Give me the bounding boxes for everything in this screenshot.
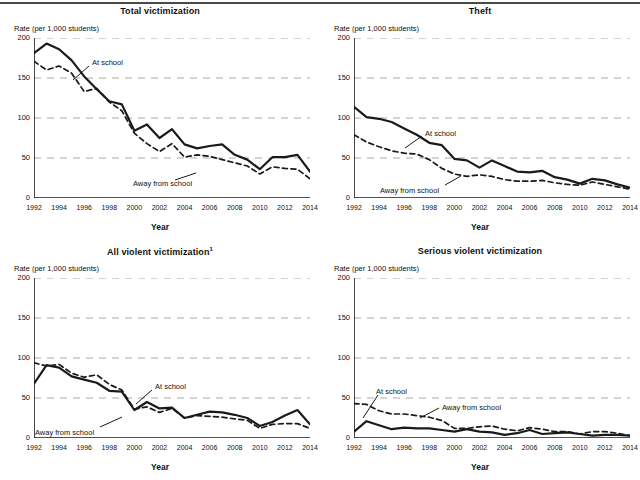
panel-title: Serious violent victimization	[320, 246, 640, 256]
x-axis-tick-label: 2004	[492, 204, 518, 211]
x-axis-tick-label: 1994	[366, 444, 392, 451]
x-axis-tick-label: 2010	[247, 204, 273, 211]
plot-area	[34, 38, 310, 198]
y-axis-tick-label: 100	[6, 113, 30, 122]
y-axis-tick-label: 0	[6, 193, 30, 202]
x-axis-tick-label: 1996	[71, 204, 97, 211]
series-annotation-away-from-school: Away from school	[442, 403, 501, 412]
x-axis-tick-label: 2006	[197, 204, 223, 211]
x-axis-tick-label: 1994	[46, 444, 72, 451]
x-axis-tick-label: 2012	[272, 444, 298, 451]
x-axis-tick-label: 2008	[542, 444, 568, 451]
x-axis-tick-label: 2006	[517, 204, 543, 211]
x-axis-tick-label: 2004	[172, 204, 198, 211]
series-annotation-at-school: At school	[425, 129, 456, 138]
chart-panel-total-victimization: Total victimization Rate (per 1,000 stud…	[0, 0, 320, 240]
chart-panel-serious-violent-victimization: Serious violent victimization Rate (per …	[320, 240, 640, 480]
y-axis-tick-label: 0	[326, 193, 350, 202]
x-axis-tick-label: 2002	[466, 444, 492, 451]
series-annotation-away-from-school: Away from school	[133, 179, 192, 188]
plot-area	[34, 278, 310, 438]
x-axis-tick-label: 2006	[197, 444, 223, 451]
series-annotation-away-from-school: Away from school	[380, 186, 439, 195]
x-axis-tick-label: 2000	[121, 444, 147, 451]
chart-panel-all-violent-victimization: All violent victimization1 Rate (per 1,0…	[0, 240, 320, 480]
x-axis-tick-label: 2014	[617, 444, 640, 451]
y-axis-tick-label: 50	[6, 153, 30, 162]
y-axis-tick-label: 100	[326, 353, 350, 362]
plot-area	[354, 278, 630, 438]
x-axis-tick-label: 2002	[146, 444, 172, 451]
x-axis-label: Year	[320, 462, 640, 472]
y-axis-label: Rate (per 1,000 students)	[14, 264, 99, 273]
y-axis-tick-label: 200	[326, 273, 350, 282]
x-axis-tick-label: 1998	[96, 444, 122, 451]
x-axis-tick-label: 1992	[21, 444, 47, 451]
series-annotation-at-school: At school	[92, 58, 123, 67]
x-axis-tick-label: 1996	[71, 444, 97, 451]
y-axis-label: Rate (per 1,000 students)	[334, 264, 419, 273]
x-axis-tick-label: 2000	[441, 444, 467, 451]
x-axis-tick-label: 2008	[542, 204, 568, 211]
x-axis-tick-label: 2008	[222, 444, 248, 451]
x-axis-tick-label: 2004	[172, 444, 198, 451]
y-axis-tick-label: 0	[326, 433, 350, 442]
y-axis-tick-label: 200	[6, 273, 30, 282]
footnote-marker: 1	[210, 246, 213, 252]
y-axis-tick-label: 0	[6, 433, 30, 442]
x-axis-tick-label: 2002	[146, 204, 172, 211]
panel-title: Theft	[320, 6, 640, 16]
x-axis-label: Year	[320, 222, 640, 232]
x-axis-tick-label: 1996	[391, 204, 417, 211]
panel-title: Total victimization	[0, 6, 320, 16]
y-axis-tick-label: 50	[6, 393, 30, 402]
x-axis-tick-label: 2006	[517, 444, 543, 451]
y-axis-tick-label: 150	[6, 73, 30, 82]
plot-area	[354, 38, 630, 198]
x-axis-tick-label: 2010	[567, 204, 593, 211]
y-axis-tick-label: 50	[326, 393, 350, 402]
series-annotation-at-school: At school	[155, 382, 186, 391]
x-axis-tick-label: 1994	[366, 204, 392, 211]
x-axis-tick-label: 1996	[391, 444, 417, 451]
x-axis-tick-label: 2000	[121, 204, 147, 211]
y-axis-tick-label: 100	[326, 113, 350, 122]
y-axis-tick-label: 100	[6, 353, 30, 362]
x-axis-tick-label: 1992	[341, 204, 367, 211]
x-axis-tick-label: 2012	[272, 204, 298, 211]
x-axis-tick-label: 1992	[341, 444, 367, 451]
y-axis-tick-label: 200	[6, 33, 30, 42]
chart-panel-theft: Theft Rate (per 1,000 students) Year 200…	[320, 0, 640, 240]
y-axis-tick-label: 150	[326, 313, 350, 322]
x-axis-tick-label: 2012	[592, 444, 618, 451]
x-axis-label: Year	[0, 462, 320, 472]
x-axis-tick-label: 1994	[46, 204, 72, 211]
x-axis-label: Year	[0, 222, 320, 232]
x-axis-tick-label: 2014	[617, 204, 640, 211]
y-axis-label: Rate (per 1,000 students)	[334, 24, 419, 33]
x-axis-tick-label: 2012	[592, 204, 618, 211]
y-axis-tick-label: 200	[326, 33, 350, 42]
x-axis-tick-label: 1998	[96, 204, 122, 211]
x-axis-tick-label: 2010	[567, 444, 593, 451]
series-annotation-away-from-school: Away from school	[35, 428, 94, 437]
x-axis-tick-label: 2000	[441, 204, 467, 211]
x-axis-tick-label: 2010	[247, 444, 273, 451]
y-axis-tick-label: 150	[6, 313, 30, 322]
x-axis-tick-label: 1992	[21, 204, 47, 211]
panel-title: All violent victimization1	[0, 246, 320, 257]
y-axis-tick-label: 50	[326, 153, 350, 162]
x-axis-tick-label: 2004	[492, 444, 518, 451]
x-axis-tick-label: 1998	[416, 444, 442, 451]
y-axis-tick-label: 150	[326, 73, 350, 82]
x-axis-tick-label: 1998	[416, 204, 442, 211]
x-axis-tick-label: 2002	[466, 204, 492, 211]
series-annotation-at-school: At school	[376, 387, 407, 396]
y-axis-label: Rate (per 1,000 students)	[14, 24, 99, 33]
x-axis-tick-label: 2008	[222, 204, 248, 211]
